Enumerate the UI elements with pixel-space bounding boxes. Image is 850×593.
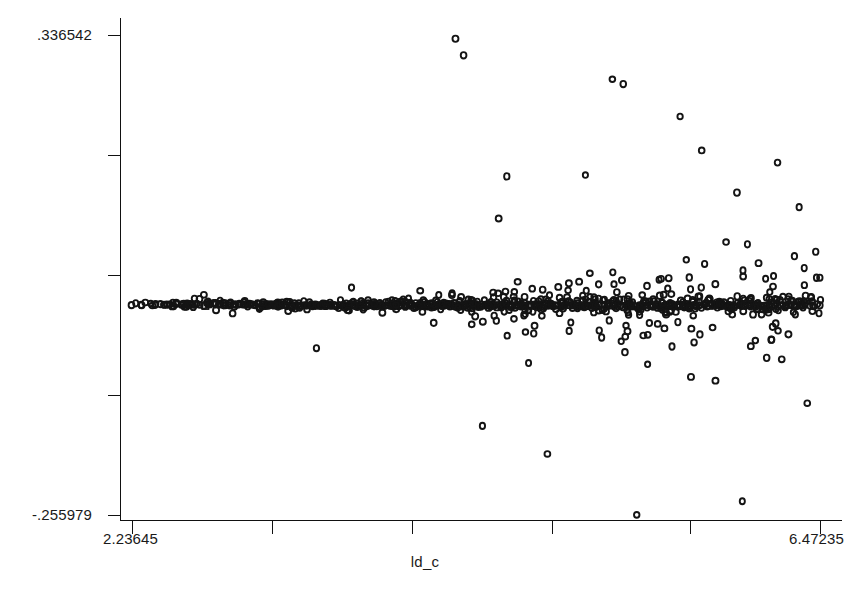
data-point-marker xyxy=(614,289,620,295)
chart-canvas xyxy=(0,0,850,593)
data-point-marker xyxy=(729,312,735,318)
data-point-marker xyxy=(645,362,650,368)
data-point-marker xyxy=(522,294,528,300)
x-axis-ticks xyxy=(133,521,821,534)
data-point-marker xyxy=(740,273,746,279)
data-point-marker xyxy=(644,283,650,289)
data-point-marker xyxy=(792,253,797,259)
data-point-marker xyxy=(728,298,734,304)
data-point-marker xyxy=(723,239,729,245)
data-point-marker xyxy=(688,374,694,380)
data-point-marker xyxy=(647,320,652,326)
data-point-marker xyxy=(745,241,750,247)
data-point-marker xyxy=(610,269,615,275)
data-point-marker xyxy=(591,309,596,315)
data-point-marker xyxy=(748,343,754,349)
data-point-marker xyxy=(597,327,602,333)
data-point-marker xyxy=(740,498,745,504)
data-point-marker xyxy=(349,285,354,291)
data-point-marker xyxy=(756,260,762,266)
data-point-marker xyxy=(469,321,475,327)
data-point-marker xyxy=(596,281,602,287)
y-axis-min-label: -.255979 xyxy=(32,506,92,523)
data-point-marker xyxy=(503,289,509,295)
data-point-marker xyxy=(511,316,517,322)
data-point-marker xyxy=(314,345,319,351)
data-point-marker xyxy=(539,313,545,319)
data-point-marker xyxy=(816,310,821,316)
data-point-marker xyxy=(753,338,759,344)
data-point-marker xyxy=(684,257,689,263)
data-point-marker xyxy=(763,276,768,282)
data-point-marker xyxy=(568,320,573,326)
y-axis-ticks xyxy=(108,36,121,516)
data-point-marker xyxy=(802,265,807,271)
data-point-marker xyxy=(436,292,441,298)
data-point-marker xyxy=(770,284,776,290)
x-axis-max-label: 6.47235 xyxy=(789,530,844,547)
data-point-marker xyxy=(504,173,509,179)
data-point-marker xyxy=(655,321,661,327)
data-point-marker xyxy=(779,356,785,362)
data-point-marker xyxy=(640,333,646,339)
data-point-marker xyxy=(472,313,478,319)
data-point-marker xyxy=(688,286,693,292)
data-point-marker xyxy=(494,318,499,324)
data-point-marker xyxy=(611,281,616,287)
data-point-marker xyxy=(813,249,818,255)
data-point-marker xyxy=(712,378,718,384)
data-point-marker xyxy=(620,81,626,87)
data-point-marker xyxy=(677,114,682,120)
data-point-marker xyxy=(133,300,138,306)
data-point-marker xyxy=(526,360,531,366)
data-point-marker xyxy=(669,343,674,349)
data-point-marker xyxy=(699,284,705,290)
data-point-marker xyxy=(449,292,455,298)
axes-group xyxy=(121,18,843,521)
data-point-marker xyxy=(666,275,672,281)
data-point-marker xyxy=(712,281,718,287)
data-point-marker xyxy=(565,287,571,293)
data-point-marker xyxy=(540,287,546,293)
data-point-marker xyxy=(515,279,521,285)
data-point-marker xyxy=(545,451,551,457)
data-point-marker xyxy=(710,325,716,331)
data-point-marker xyxy=(452,36,458,42)
data-point-marker xyxy=(496,216,502,222)
data-point-marker xyxy=(587,271,593,277)
data-point-marker xyxy=(734,189,740,195)
data-point-marker xyxy=(480,319,486,325)
data-point-marker xyxy=(691,339,697,345)
data-point-marker xyxy=(610,76,616,82)
data-point-marker xyxy=(619,277,625,283)
y-axis-max-label: .336542 xyxy=(37,26,92,43)
data-point-marker xyxy=(740,308,746,314)
data-point-marker xyxy=(557,310,563,316)
data-point-marker xyxy=(802,282,807,288)
data-point-marker xyxy=(771,273,776,279)
data-point-marker xyxy=(599,334,604,340)
data-point-marker xyxy=(734,293,740,299)
data-point-marker xyxy=(201,292,207,298)
data-point-marker xyxy=(505,333,510,339)
data-point-marker xyxy=(797,204,802,210)
data-point-marker xyxy=(567,328,572,334)
data-point-marker xyxy=(531,330,536,336)
data-point-marker xyxy=(584,288,589,294)
data-point-marker xyxy=(697,331,703,337)
x-axis-title: ld_c xyxy=(0,553,850,570)
data-point-marker xyxy=(668,291,674,297)
data-point-marker xyxy=(759,312,765,318)
x-axis-min-label: 2.23645 xyxy=(103,530,158,547)
data-point-marker xyxy=(607,317,612,323)
data-point-marker xyxy=(576,279,582,285)
data-point-marker xyxy=(523,329,529,335)
data-point-marker xyxy=(457,298,462,304)
scatter-plot-figure: .336542 -.255979 2.23645 6.47235 ld_c xyxy=(0,0,850,593)
data-point-marker xyxy=(675,319,680,325)
data-point-markers xyxy=(129,36,824,518)
data-point-marker xyxy=(379,310,385,316)
data-point-marker xyxy=(622,349,628,355)
data-point-marker xyxy=(495,291,501,297)
data-point-marker xyxy=(230,310,236,316)
